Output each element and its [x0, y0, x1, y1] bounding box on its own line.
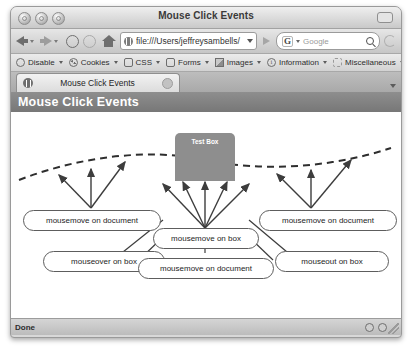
- devbar-item-disable[interactable]: Disable: [16, 58, 55, 67]
- forward-chevron-down-icon: [54, 40, 58, 43]
- callout-left-mousemove-document: mousemove on document: [23, 210, 161, 231]
- forward-arrow-icon: [44, 36, 52, 46]
- status-text: Done: [15, 323, 35, 332]
- window-title: Mouse Click Events: [11, 10, 401, 21]
- disable-chevron-down-icon[interactable]: [59, 61, 63, 64]
- disable-icon: [16, 58, 25, 67]
- test-box[interactable]: Test Box: [175, 133, 235, 181]
- search-input[interactable]: Google: [303, 37, 366, 46]
- back-arrow-icon: [16, 36, 24, 46]
- page-viewport: Mouse Click Events: [11, 92, 401, 318]
- resize-grip[interactable]: [388, 323, 399, 334]
- security-icon[interactable]: [365, 323, 374, 332]
- miscellaneous-chevron-down-icon[interactable]: [400, 61, 401, 64]
- test-box-label: Test Box: [175, 138, 235, 145]
- information-chevron-down-icon[interactable]: [323, 61, 327, 64]
- devbar-item-cookies[interactable]: Cookies: [69, 58, 110, 67]
- information-icon: [267, 58, 276, 67]
- search-bar[interactable]: G Google: [276, 32, 380, 50]
- devbar-item-forms[interactable]: Forms: [166, 58, 201, 67]
- tab-favicon-icon: [23, 78, 33, 88]
- url-text: file:///Users/jeffreysambells/: [136, 36, 244, 46]
- go-button[interactable]: [261, 36, 272, 47]
- tab-list-chevron-down-icon[interactable]: [390, 84, 396, 88]
- home-body: [104, 41, 113, 47]
- css-chevron-down-icon[interactable]: [156, 61, 160, 64]
- devbar-label: Miscellaneous: [345, 58, 396, 67]
- forward-button[interactable]: [40, 36, 58, 46]
- callout-right-mousemove-document: mousemove on document: [259, 210, 397, 231]
- back-arrow-tail: [24, 39, 28, 43]
- images-icon: [215, 58, 224, 67]
- search-engine-chevron-down-icon[interactable]: [296, 40, 300, 43]
- forms-chevron-down-icon[interactable]: [205, 61, 209, 64]
- event-diagram-canvas: Test Box mousemove on document mouseover…: [11, 112, 401, 318]
- browser-window: Mouse Click Events file:///Users/jeffrey…: [10, 6, 402, 338]
- devbar-item-css[interactable]: CSS: [124, 58, 152, 67]
- privacy-icon[interactable]: [378, 323, 387, 332]
- tab-title: Mouse Click Events: [33, 78, 162, 88]
- devbar-label: Cookies: [81, 58, 110, 67]
- callout-center-mousemove-document: mousemove on document: [138, 258, 274, 279]
- miscellaneous-icon: [333, 58, 342, 67]
- tab-close-icon[interactable]: [162, 78, 173, 89]
- callout-center-mousemove-box: mousemove on box: [153, 228, 259, 249]
- devbar-label: Disable: [28, 58, 55, 67]
- status-bar: Done: [11, 318, 401, 335]
- page-header-bar: Mouse Click Events: [11, 92, 401, 112]
- back-chevron-down-icon: [30, 40, 34, 43]
- cookies-chevron-down-icon[interactable]: [114, 61, 118, 64]
- images-chevron-down-icon[interactable]: [257, 61, 261, 64]
- callout-right-mouseout-box: mouseout on box: [275, 251, 389, 272]
- css-icon: [124, 58, 133, 67]
- reload-icon[interactable]: [66, 35, 79, 48]
- web-developer-toolbar: Disable Cookies CSS Forms Images Informa…: [11, 54, 401, 72]
- back-button[interactable]: [16, 36, 34, 46]
- screenshot-root: Mouse Click Events file:///Users/jeffrey…: [0, 0, 412, 349]
- forms-icon: [166, 58, 175, 67]
- page-title: Mouse Click Events: [18, 95, 139, 109]
- tab-bar: Mouse Click Events: [11, 72, 401, 92]
- devbar-item-images[interactable]: Images: [215, 58, 253, 67]
- google-icon: G: [282, 36, 293, 47]
- devbar-label: CSS: [136, 58, 152, 67]
- address-bar[interactable]: file:///Users/jeffreysambells/: [120, 32, 257, 50]
- search-icon: [366, 37, 374, 45]
- page-favicon-icon: [124, 37, 133, 46]
- navigation-toolbar: file:///Users/jeffreysambells/ G Google: [11, 29, 401, 54]
- cookies-icon: [69, 58, 78, 67]
- window-titlebar: Mouse Click Events: [11, 7, 401, 29]
- toolbar-toggle-button[interactable]: [377, 12, 393, 23]
- devbar-item-information[interactable]: Information: [267, 58, 319, 67]
- url-chevron-down-icon[interactable]: [247, 39, 253, 43]
- status-icon-group: [365, 323, 387, 332]
- stop-icon[interactable]: [83, 35, 96, 48]
- home-icon[interactable]: [102, 35, 115, 47]
- devbar-item-miscellaneous[interactable]: Miscellaneous: [333, 58, 396, 67]
- tab-mouse-click-events[interactable]: Mouse Click Events: [16, 73, 180, 92]
- devbar-label: Images: [227, 58, 253, 67]
- devbar-label: Forms: [178, 58, 201, 67]
- activity-indicator-icon: [384, 35, 396, 47]
- devbar-label: Information: [279, 58, 319, 67]
